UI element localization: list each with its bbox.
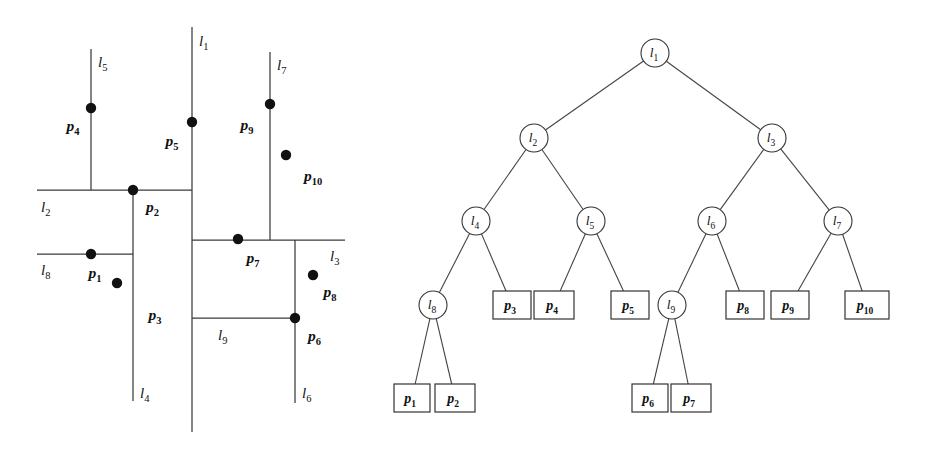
tree-edge-l4-p3: [482, 234, 506, 291]
data-point-label-p6: p6: [306, 327, 321, 347]
splitting-line-label-l9: l9: [218, 327, 227, 346]
data-point-p1: [86, 249, 96, 259]
tree-edge-l3-l6: [720, 149, 764, 209]
splitting-line-label-l8: l8: [41, 262, 50, 281]
splitting-line-label-l2: l2: [41, 199, 50, 218]
data-point-p8: [308, 270, 318, 280]
tree-edge-l7-p9: [798, 233, 831, 291]
splitting-line-label-l6: l6: [302, 385, 311, 404]
data-point-p2: [128, 185, 138, 195]
data-point-p9: [265, 99, 275, 109]
tree-edge-l8-p2: [436, 319, 451, 384]
tree-edge-l5-p5: [597, 234, 624, 291]
subdivision-diagram: l1l2l3l4l5l6l7l8l9p1p2p3p4p5p6p7p8p9p10: [37, 27, 345, 432]
tree-edge-l2-l4: [484, 149, 526, 209]
tree-edge-l2-l5: [542, 150, 583, 210]
tree-edge-l3-l7: [781, 149, 830, 210]
data-point-p10: [281, 150, 291, 160]
data-point-p7: [233, 234, 243, 244]
tree-edge-l9-p6: [653, 319, 668, 384]
splitting-line-label-l1: l1: [199, 33, 208, 52]
data-point-label-p4: p4: [65, 117, 81, 137]
data-point-label-p7: p7: [245, 249, 260, 269]
tree-edge-l7-p10: [843, 234, 863, 291]
splitting-line-label-l7: l7: [277, 57, 286, 76]
tree-edge-l6-p8: [717, 234, 739, 291]
splitting-line-label-l3: l3: [330, 248, 339, 267]
kd-tree-figure: l1l2l3l4l5l6l7l8l9p1p2p3p4p5p6p7p8p9p10 …: [0, 0, 938, 452]
data-point-label-p8: p8: [322, 283, 337, 303]
data-point-label-p9: p9: [239, 116, 254, 136]
data-point-label-p5: p5: [164, 132, 179, 152]
tree-edge-l9-p7: [675, 319, 688, 384]
data-point-label-p10: p10: [302, 167, 322, 187]
data-point-p4: [86, 103, 96, 113]
figure-canvas: l1l2l3l4l5l6l7l8l9p1p2p3p4p5p6p7p8p9p10 …: [0, 0, 938, 452]
tree-edge-l8-p1: [415, 319, 430, 384]
data-point-p5: [187, 117, 197, 127]
tree-edge-l4-l8: [439, 233, 469, 292]
tree-edge-l1-l2: [545, 61, 643, 130]
data-point-p3: [112, 278, 122, 288]
data-point-label-p1: p1: [87, 264, 102, 284]
splitting-line-label-l4: l4: [140, 385, 150, 404]
tree-edge-l1-l3: [666, 61, 760, 130]
tree-edge-l5-p4: [560, 234, 585, 291]
data-point-label-p2: p2: [144, 198, 159, 218]
tree-edge-l6-l9: [678, 234, 706, 293]
data-point-p6: [290, 313, 300, 323]
splitting-line-label-l5: l5: [98, 54, 107, 73]
data-point-label-p3: p3: [147, 306, 162, 326]
tree-diagram: l1l2l3l4l5l6l7l8l9p1p2p3p4p5p6p7p8p9p10: [394, 39, 889, 412]
